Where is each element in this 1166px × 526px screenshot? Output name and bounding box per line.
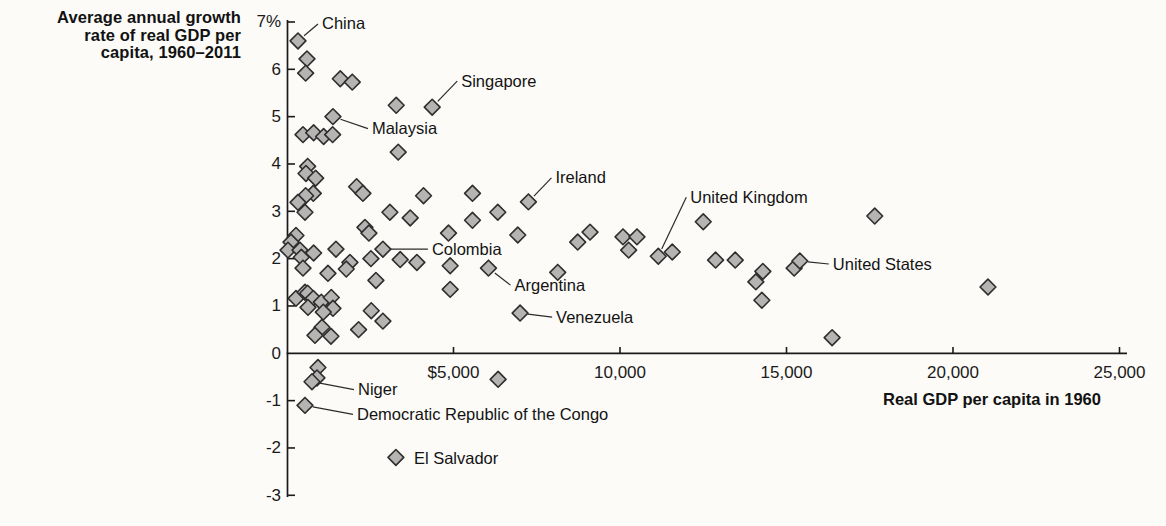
label-leader-line [341,119,368,128]
label-leader-line [808,262,829,264]
y-tick-label: 5 [272,107,281,126]
data-point [441,225,457,241]
data-point [363,303,379,319]
data-point [402,210,418,226]
y-tick-label: 3 [272,202,281,221]
data-point [390,144,406,160]
data-point-venezuela [512,305,528,321]
label-leader-line [313,407,353,415]
data-point [299,51,315,67]
data-point [320,265,336,281]
label-leader-line [528,314,552,317]
data-point-argentina [481,260,497,276]
data-point-singapore [424,99,440,115]
x-tick-label: 20,000 [927,363,979,382]
country-label: Singapore [461,72,536,90]
country-label: Argentina [514,276,585,294]
data-point [490,204,506,220]
label-leader-line [495,273,511,285]
data-point-democratic-republic-of-the-congo [297,397,313,413]
data-point [465,185,481,201]
data-point [351,322,367,338]
country-label: Ireland [555,168,605,186]
y-tick-label: -2 [266,438,281,457]
label-leader-line [438,81,457,101]
y-tick-label: 7% [256,12,281,31]
data-point [295,260,311,276]
data-point [409,255,425,271]
y-tick-label: 1 [272,296,281,315]
country-label: Malaysia [372,119,438,137]
y-tick-label: -3 [266,486,281,505]
country-label: China [322,14,366,32]
figure: Average annual growth rate of real GDP p… [0,0,1166,526]
data-point [754,292,770,308]
data-point-el-salvador [388,450,404,466]
country-label: El Salvador [414,449,499,467]
y-tick-label: 0 [272,344,281,363]
x-tick-label: 25,000 [1094,363,1146,382]
scatter-plot: 7%6543210-1-2-3$5,00010,00015,00020,0002… [0,0,1166,526]
data-point [824,330,840,346]
data-point [368,273,384,289]
country-label: Venezuela [556,308,634,326]
data-point-china [290,33,306,49]
data-point-colombia [375,241,391,257]
data-point [416,188,432,204]
y-tick-label: -1 [266,391,281,410]
data-point-malaysia [325,109,341,125]
label-leader-line [304,24,318,36]
country-label: United States [833,255,932,273]
data-point [490,371,506,387]
data-point [465,212,481,228]
data-point [727,252,743,268]
data-point-ireland [521,194,537,210]
label-leader-line [534,178,551,196]
data-point [328,241,344,257]
data-point [708,252,724,268]
data-point [363,251,379,267]
data-point [382,204,398,220]
data-point [298,65,314,81]
data-point [442,282,458,298]
label-leader-line [662,197,687,249]
data-point [867,208,883,224]
data-point [388,97,404,113]
data-point [375,313,391,329]
country-label: United Kingdom [690,188,807,206]
data-point [392,252,408,268]
data-point [629,229,645,245]
y-tick-label: 2 [272,249,281,268]
x-tick-label: $5,000 [428,363,480,382]
data-point [980,279,996,295]
label-leader-line [320,383,354,390]
data-point [442,258,458,274]
data-point [582,224,598,240]
data-point [695,214,711,230]
data-point-united-kingdom [650,248,666,264]
y-tick-label: 6 [272,60,281,79]
y-tick-label: 4 [272,154,281,173]
x-tick-label: 10,000 [594,363,646,382]
data-point [510,227,526,243]
country-label: Niger [358,380,398,398]
data-point [570,234,586,250]
country-label: Colombia [432,240,503,258]
data-point [664,244,680,260]
x-tick-label: 15,000 [761,363,813,382]
country-label: Democratic Republic of the Congo [357,405,608,423]
